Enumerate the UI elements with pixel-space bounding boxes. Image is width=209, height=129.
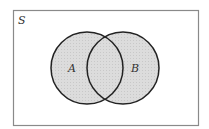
set-b-label: B [130,62,139,75]
set-a-label: A [67,62,76,75]
universe-label: S [18,14,26,27]
venn-diagram: S A B [0,0,209,129]
